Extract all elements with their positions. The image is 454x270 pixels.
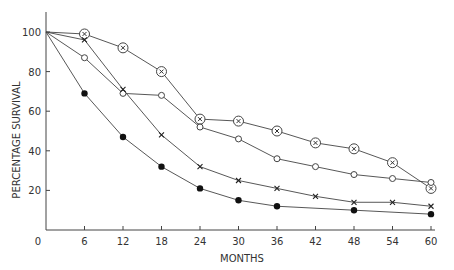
axes: 0612182430364248546020406080100 [22, 12, 437, 247]
x-tick-label: 36 [271, 236, 284, 247]
x-tick-label: 6 [81, 236, 87, 247]
x-tick-label: 24 [194, 236, 207, 247]
y-tick-label: 80 [28, 67, 41, 78]
x-tick-label: 12 [117, 236, 130, 247]
y-axis-label: PERCENTAGE SURVIVAL [11, 81, 22, 199]
series-lines [46, 29, 436, 217]
survival-chart: 0612182430364248546020406080100 MONTHS P… [0, 0, 454, 270]
series-open-circle [46, 32, 434, 185]
x-tick-label: 54 [386, 236, 399, 247]
y-tick-label: 60 [28, 106, 41, 117]
series-circled-cross [46, 29, 436, 193]
y-tick-label: 20 [28, 185, 41, 196]
x-tick-label: 48 [348, 236, 361, 247]
y-tick-label: 100 [22, 27, 41, 38]
x-tick-label: 30 [232, 236, 245, 247]
x-axis-label: MONTHS [220, 253, 264, 264]
x-tick-label: 42 [309, 236, 322, 247]
x-tick-label: 60 [425, 236, 438, 247]
x-tick-label: 0 [35, 236, 41, 247]
x-tick-label: 18 [155, 236, 168, 247]
y-tick-label: 40 [28, 146, 41, 157]
